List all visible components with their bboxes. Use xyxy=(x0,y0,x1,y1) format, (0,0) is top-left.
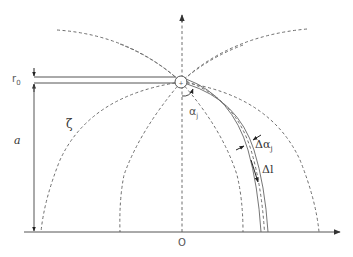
field-line-upper-mid-right xyxy=(181,45,243,82)
alpha-j-label: αj xyxy=(189,105,198,120)
alpha-j-angle-arc xyxy=(182,89,193,96)
field-line-upper-left xyxy=(57,30,181,82)
diagram-canvas: + r0 a ζ αj Δαj Δl O xyxy=(0,0,353,257)
r0-label: r0 xyxy=(12,73,21,87)
rod xyxy=(34,77,176,83)
zeta-label: ζ xyxy=(66,117,73,131)
field-line-upper-right xyxy=(181,29,307,82)
delta-alpha-j-label: Δαj xyxy=(255,138,273,153)
lower-field-lines xyxy=(41,82,319,232)
source-plus-icon: + xyxy=(178,79,183,86)
field-line-upper-mid-left xyxy=(120,44,181,82)
flux-tube xyxy=(186,79,268,232)
origin-label: O xyxy=(178,237,186,248)
delta-l-label: Δl xyxy=(262,163,274,176)
a-label: a xyxy=(14,134,21,147)
field-line-outer-left xyxy=(41,82,181,232)
field-line-inner-left xyxy=(120,82,181,232)
